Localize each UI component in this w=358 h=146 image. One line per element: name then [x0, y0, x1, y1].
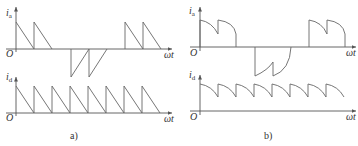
- origin-label: O: [190, 47, 197, 58]
- origin-label: O: [190, 111, 197, 122]
- id-label-b: id: [189, 69, 196, 82]
- caption-a: a): [70, 130, 78, 142]
- waveform-diagram: ia O ωt id O ωt a) ia O ωt id O ωt b): [0, 0, 358, 146]
- panel-a: ia O ωt id O ωt a): [6, 7, 174, 142]
- ia-label-b: ia: [189, 5, 196, 18]
- wt-label: ωt: [164, 49, 174, 60]
- ia-waveform-b: [200, 20, 345, 76]
- id-label-a: id: [6, 71, 13, 84]
- ia-waveform-a: [16, 22, 161, 77]
- wt-label: ωt: [346, 111, 356, 122]
- wt-label: ωt: [346, 47, 356, 58]
- origin-label: O: [6, 48, 13, 59]
- caption-b: b): [264, 130, 272, 142]
- id-waveform-a: [16, 86, 160, 113]
- panel-b: ia O ωt id O ωt b): [189, 5, 356, 142]
- wt-label: ωt: [164, 113, 174, 124]
- id-waveform-b: [200, 84, 344, 97]
- origin-label: O: [6, 112, 13, 123]
- ia-label-a: ia: [6, 7, 13, 20]
